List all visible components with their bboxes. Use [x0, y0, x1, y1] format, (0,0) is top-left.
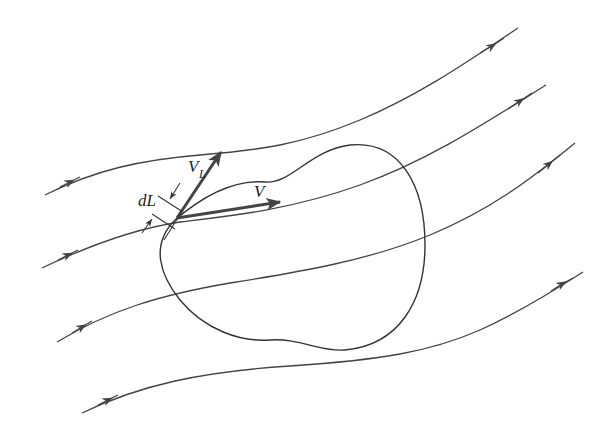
streamline-2: [42, 85, 546, 268]
streamline-4-arrow-left: [98, 395, 118, 405]
label-VL-subscript: L: [198, 167, 206, 181]
streamline-1-arrow-right: [480, 38, 504, 53]
flow-diagram: dL V L V: [0, 0, 604, 436]
contour-extension-line: [164, 213, 181, 240]
dL-arrow-upper: [170, 183, 180, 199]
streamline-2-arrow-left: [58, 250, 78, 260]
streamline-3-arrow-right: [538, 155, 560, 173]
tangential-vector-VL: [177, 152, 221, 218]
dL-arrow-lower: [142, 219, 152, 233]
streamline-3-arrow-left: [72, 321, 92, 333]
label-dL: dL: [138, 191, 156, 210]
streamline-4: [82, 272, 583, 413]
streamline-3: [57, 143, 575, 342]
streamline-4-arrow-right: [551, 278, 573, 291]
streamline-1-arrow-left: [60, 177, 80, 187]
streamline-2-arrow-right: [508, 93, 532, 109]
streamline-1: [45, 28, 518, 195]
label-V: V: [254, 182, 267, 201]
